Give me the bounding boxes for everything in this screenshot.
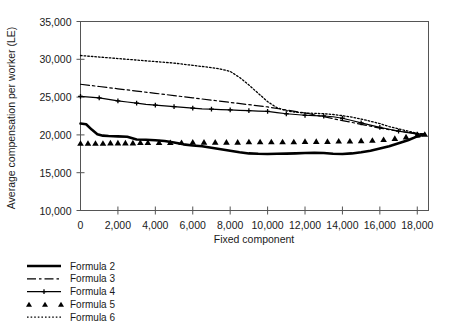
x-tick-label: 0 xyxy=(78,219,84,231)
y-tick-label: 15,000 xyxy=(39,167,71,179)
y-tick-label: 25,000 xyxy=(39,91,71,103)
legend-item-label: Formula 4 xyxy=(70,286,115,297)
y-tick-label: 30,000 xyxy=(39,53,71,65)
legend-item-label: Formula 5 xyxy=(70,299,115,310)
chart-svg: Average compensation per worker (LE) 10,… xyxy=(0,0,451,332)
y-tick-label: 10,000 xyxy=(39,205,71,217)
x-tick-label: 12,000 xyxy=(289,219,321,231)
x-tick-label: 14,000 xyxy=(326,219,358,231)
x-tick-label: 6,000 xyxy=(180,219,206,231)
x-tick-label: 10,000 xyxy=(252,219,284,231)
x-tick-label: 18,000 xyxy=(401,219,433,231)
y-tick-label: 35,000 xyxy=(39,16,71,28)
x-tick-label: 8,000 xyxy=(217,219,243,231)
legend-item-label: Formula 6 xyxy=(70,312,115,323)
legend-item-label: Formula 2 xyxy=(70,261,115,272)
x-axis-title-text: Fixed component xyxy=(214,233,295,245)
x-tick-label: 4,000 xyxy=(142,219,168,231)
x-tick-label: 16,000 xyxy=(364,219,396,231)
chart-figure: Average compensation per worker (LE) 10,… xyxy=(0,0,451,332)
y-tick-label: 20,000 xyxy=(39,129,71,141)
y-axis-title-text: Average compensation per worker (LE) xyxy=(5,27,17,209)
y-axis-title: Average compensation per worker (LE) xyxy=(5,27,17,209)
legend-item-label: Formula 3 xyxy=(70,273,115,284)
x-tick-label: 2,000 xyxy=(105,219,131,231)
